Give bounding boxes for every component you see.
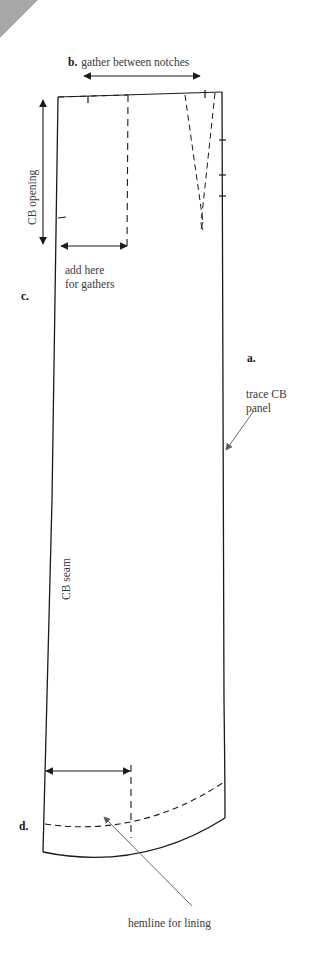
step-d-marker: d. [19,820,28,834]
notch-marks [58,90,226,218]
step-b-marker: b. [68,56,77,68]
add-here-for-gathers-label: add here for gathers [65,264,115,291]
gather-between-notches-label: gather between notches [81,56,189,68]
dart-shape [185,93,215,230]
pattern-diagram-page: b.gather between notches CB opening CB s… [0,0,313,964]
trace-line-1: trace CB [246,388,287,402]
pointer-arrow-icon-trace-cb [226,412,253,450]
pattern-diagram-svg [0,0,313,964]
trace-line-2: panel [246,402,287,416]
pointer-arrow-icon-hemline [104,817,192,906]
hemline-for-lining-label: hemline for lining [128,917,211,931]
gather-slash-line [58,95,128,250]
add-here-line-1: add here [65,264,115,278]
step-a-marker: a. [247,352,256,366]
cb-seam-label: CB seam [60,558,74,600]
cb-opening-label: CB opening [26,170,40,225]
label-step-b-group: b.gather between notches [68,52,189,70]
step-c-marker: c. [21,290,29,304]
hemline-for-lining-curve [45,782,224,827]
trace-cb-panel-label: trace CB panel [246,388,287,415]
add-here-line-2: for gathers [65,278,115,292]
cb-panel-outline [43,92,225,857]
